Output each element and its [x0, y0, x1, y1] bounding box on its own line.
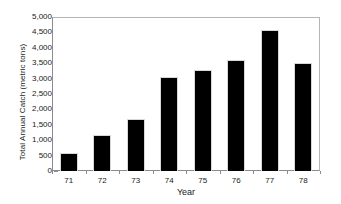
bar [93, 135, 111, 171]
x-axis-title: Year [52, 187, 320, 198]
x-axis-tick-label: 72 [86, 176, 120, 186]
x-axis-tick-group [52, 171, 320, 175]
bar [60, 153, 78, 171]
bar-slot [52, 17, 86, 171]
bar [294, 63, 312, 171]
x-axis-tick-mark [119, 171, 120, 174]
bar [127, 119, 145, 171]
y-axis-tick-label: 3,500 [32, 59, 52, 67]
x-axis-tick-label: 78 [287, 176, 321, 186]
bar-slot [86, 17, 120, 171]
y-axis-tick-label: 4,000 [32, 43, 52, 51]
bar-slot [220, 17, 254, 171]
x-axis-tick-label: 71 [52, 176, 86, 186]
y-axis-tick-label: 2,000 [32, 105, 52, 113]
x-axis-tick-mark [186, 171, 187, 174]
y-axis-tick-label: 5,000 [32, 13, 52, 21]
x-axis-tick-mark [52, 171, 53, 174]
x-axis-tick-label: 74 [153, 176, 187, 186]
y-axis-tick-label: 4,500 [32, 28, 52, 36]
x-axis-tick-mark [86, 171, 87, 174]
x-axis-tick-label: 75 [186, 176, 220, 186]
bar [227, 60, 245, 171]
y-axis-title: Total Annual Catch (metric tons) [14, 0, 30, 204]
bar-chart-figure: Total Annual Catch (metric tons) 5,0004,… [0, 0, 341, 204]
bar [261, 30, 279, 171]
x-axis-tick-mark [253, 171, 254, 174]
bar-slot [287, 17, 321, 171]
bar-slot [186, 17, 220, 171]
bars-group [52, 17, 320, 171]
y-axis-tick-label: 1,500 [32, 120, 52, 128]
bar-slot [153, 17, 187, 171]
y-axis-tick-label: 1,000 [32, 136, 52, 144]
x-axis-tick-mark [287, 171, 288, 174]
bar [194, 70, 212, 171]
x-axis-tick-mark [153, 171, 154, 174]
y-axis-tick-label: 3,000 [32, 74, 52, 82]
x-axis-tick-mark [220, 171, 221, 174]
x-axis-tick-label: 77 [253, 176, 287, 186]
bar [160, 77, 178, 171]
y-axis-tick-label: 500 [39, 151, 52, 159]
bar-slot [119, 17, 153, 171]
x-axis-tick-label: 73 [119, 176, 153, 186]
x-axis-tick-mark [320, 171, 321, 174]
y-axis-tick-label: 2,500 [32, 90, 52, 98]
x-axis-tick-label: 76 [220, 176, 254, 186]
bar-slot [253, 17, 287, 171]
